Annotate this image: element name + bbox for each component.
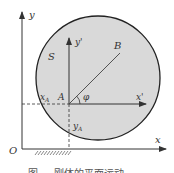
x-axis-label: x [155,134,161,145]
origin-label: O [9,145,17,156]
point-b-label: B [113,40,121,51]
angle-label: φ [83,92,90,102]
ground-hatch [35,151,71,155]
figure-caption: 图 ... 刚体的平面运动 [28,167,124,173]
rigid-body-circle [36,16,160,140]
body-label: S [48,51,55,62]
plane-motion-diagram: y x O S y' x' A B φ xA yA 图 ... 刚体的平面运动 [0,0,174,173]
point-a-label: A [57,92,65,102]
y-prime-label: y' [74,37,83,47]
x-prime-label: x' [136,92,144,102]
y-axis-label: y [28,9,35,20]
